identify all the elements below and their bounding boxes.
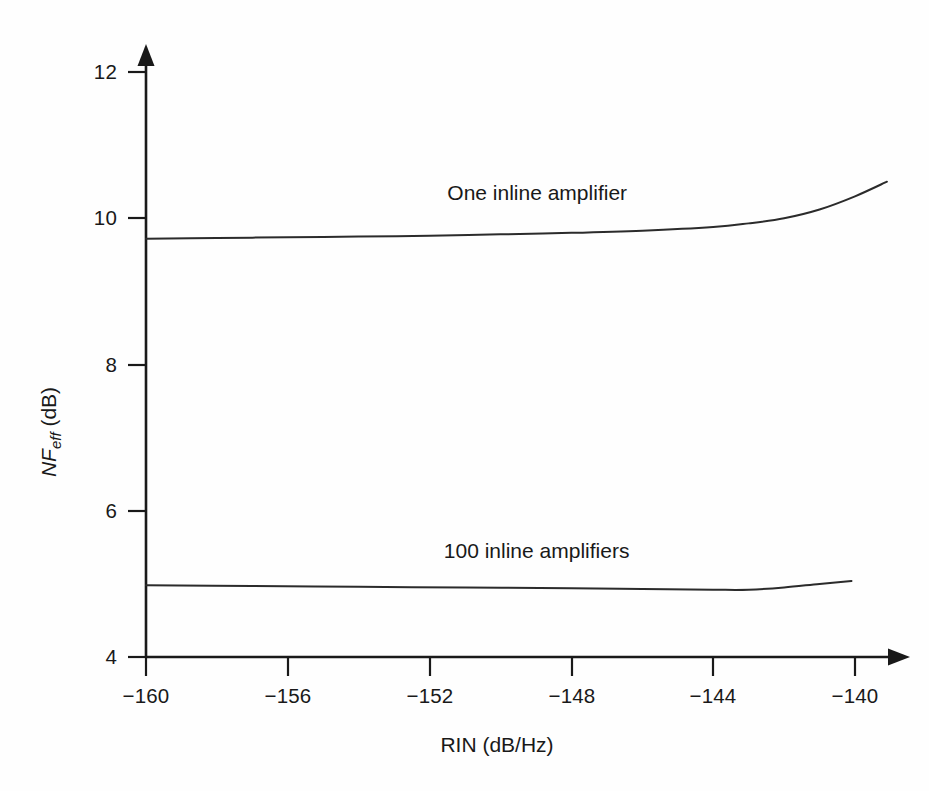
y-axis-arrow-icon — [138, 44, 155, 66]
y-axis-title: NFeff (dB) — [37, 387, 64, 477]
x-axis-title: RIN (dB/Hz) — [440, 733, 553, 756]
series-annotation-100-inline-amplifiers: 100 inline amplifiers — [444, 539, 630, 562]
y-tick-label-12: 12 — [94, 60, 117, 83]
x-tick-label-neg152: −152 — [407, 684, 454, 707]
x-tick-label-neg160: −160 — [123, 684, 170, 707]
chart-plot-area: 12 10 8 6 4 −160 −156 −152 −148 −144 −14… — [0, 0, 929, 791]
y-axis-ticks — [128, 72, 146, 657]
y-axis-tick-labels: 12 10 8 6 4 — [94, 60, 117, 668]
y-axis-title-units: (dB) — [37, 387, 60, 433]
y-tick-label-4: 4 — [105, 645, 117, 668]
x-tick-label-neg156: −156 — [265, 684, 312, 707]
x-axis-tick-labels: −160 −156 −152 −148 −144 −140 — [123, 684, 879, 707]
svg-text:NFeff (dB): NFeff (dB) — [37, 387, 64, 477]
x-tick-label-neg144: −144 — [690, 684, 737, 707]
figure-canvas: 12 10 8 6 4 −160 −156 −152 −148 −144 −14… — [0, 0, 929, 791]
x-tick-label-neg140: −140 — [832, 684, 879, 707]
x-axis-arrow-icon — [888, 649, 910, 666]
x-axis-ticks — [146, 657, 855, 676]
series-line-100-inline-amplifiers — [146, 581, 851, 590]
y-tick-label-10: 10 — [94, 206, 117, 229]
y-tick-label-6: 6 — [105, 499, 117, 522]
x-tick-label-neg148: −148 — [549, 684, 596, 707]
series-annotation-one-inline-amplifier: One inline amplifier — [447, 181, 627, 204]
y-tick-label-8: 8 — [105, 353, 117, 376]
y-axis-title-main: NF — [37, 448, 60, 477]
